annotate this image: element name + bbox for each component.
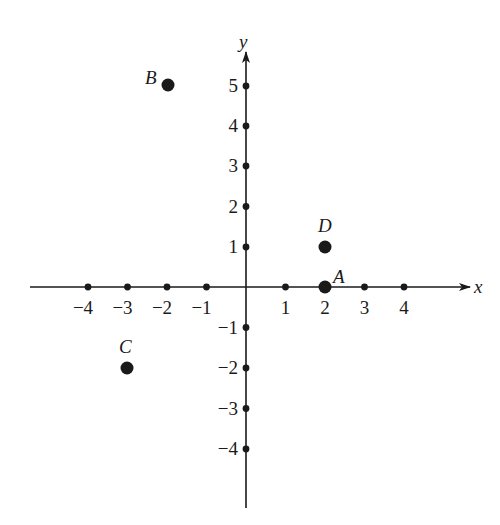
y-tick-label: −1 (218, 317, 238, 338)
y-tick-dot (243, 83, 250, 90)
point-d: D (317, 215, 332, 254)
point-c: C (119, 336, 134, 375)
point-a: A (319, 266, 346, 294)
x-tick-dot (164, 284, 171, 291)
coordinate-plane: x y −4 −3 −2 −1 1 2 3 4 5 4 (0, 0, 500, 525)
y-tick-dot (243, 405, 250, 412)
point-a-dot (319, 281, 332, 294)
x-tick-dot (85, 284, 92, 291)
x-tick-label: −2 (152, 297, 172, 318)
x-tick-labels: −4 −3 −2 −1 1 2 3 4 (73, 297, 409, 318)
x-tick-dot (361, 284, 368, 291)
y-axis-label: y (237, 31, 248, 52)
x-tick-label: 2 (320, 297, 330, 318)
y-tick-dot (243, 244, 250, 251)
y-tick-label: 2 (229, 196, 239, 217)
point-b-dot (162, 79, 175, 92)
y-tick-label: 1 (229, 236, 239, 257)
y-tick-dot (243, 365, 250, 372)
y-tick-label: −2 (218, 357, 238, 378)
x-tick-label: −4 (73, 297, 94, 318)
point-d-dot (319, 241, 332, 254)
x-tick-dot (401, 284, 408, 291)
y-tick-dot (243, 123, 250, 130)
x-tick-dot (282, 284, 289, 291)
y-tick-label: −4 (218, 438, 239, 459)
x-tick-label: 1 (281, 297, 291, 318)
x-tick-label: −1 (191, 297, 211, 318)
point-b: B (145, 67, 175, 92)
x-tick-label: 4 (399, 297, 409, 318)
x-axis-label: x (473, 276, 483, 297)
x-tick-label: −3 (112, 297, 132, 318)
y-tick-dot (243, 203, 250, 210)
point-c-label: C (119, 336, 132, 357)
point-a-label: A (331, 266, 345, 287)
point-b-label: B (145, 67, 157, 88)
point-c-dot (121, 362, 134, 375)
x-tick-dot (124, 284, 131, 291)
point-d-label: D (317, 215, 332, 236)
y-tick-label: −3 (218, 398, 238, 419)
y-tick-label: 3 (229, 155, 239, 176)
y-tick-label: 4 (229, 115, 239, 136)
y-tick-dot (243, 446, 250, 453)
y-tick-label: 5 (229, 75, 239, 96)
y-tick-dot (243, 163, 250, 170)
x-tick-label: 3 (360, 297, 370, 318)
x-tick-dot (203, 284, 210, 291)
y-tick-labels: 5 4 3 2 1 −1 −2 −3 −4 (218, 75, 239, 459)
y-tick-dot (243, 324, 250, 331)
